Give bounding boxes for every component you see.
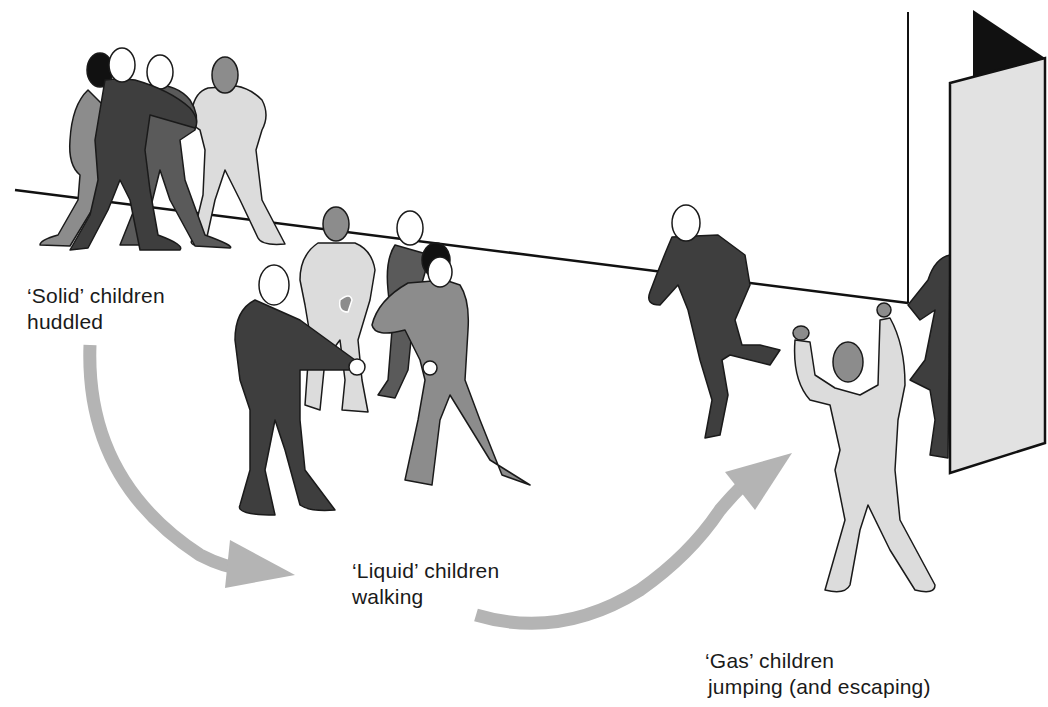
child-figure <box>649 235 780 438</box>
label-solid-line2: huddled <box>27 309 165 335</box>
door <box>950 10 1045 473</box>
arrow-liquid-to-gas <box>476 453 792 623</box>
label-liquid-children: ‘Liquid’ children walking <box>352 558 499 610</box>
child-head <box>833 342 863 382</box>
child-figure <box>191 86 285 246</box>
child-hand <box>349 359 365 375</box>
child-head <box>428 257 452 287</box>
diagram-canvas <box>0 0 1048 707</box>
child-hand <box>793 326 809 340</box>
child-head <box>212 57 238 93</box>
child-head <box>259 265 289 305</box>
liquid-children-group <box>235 207 530 515</box>
child-head <box>147 55 173 89</box>
label-liquid-line2: walking <box>352 584 499 610</box>
label-gas-line2: jumping (and escaping) <box>705 674 931 700</box>
child-figure <box>795 318 935 592</box>
child-figure-escaping <box>908 255 950 458</box>
child-head <box>672 205 700 241</box>
child-hand <box>423 361 437 375</box>
child-head <box>397 211 423 245</box>
label-solid-children: ‘Solid’ children huddled <box>27 283 165 335</box>
child-head <box>109 48 135 82</box>
label-gas-children: ‘Gas’ children jumping (and escaping) <box>705 648 931 700</box>
door-panel <box>950 58 1045 473</box>
label-gas-line1: ‘Gas’ children <box>705 648 931 674</box>
label-liquid-line1: ‘Liquid’ children <box>352 558 499 584</box>
child-hand <box>877 303 891 317</box>
child-head <box>323 207 349 241</box>
label-solid-line1: ‘Solid’ children <box>27 283 165 309</box>
